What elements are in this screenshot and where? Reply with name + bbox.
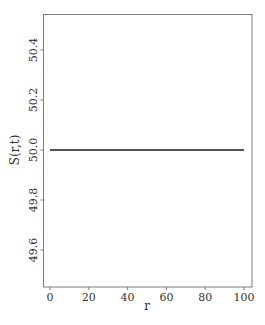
x-tick-label: 20 — [82, 291, 96, 304]
y-tick-label: 50.2 — [27, 88, 40, 113]
x-tick-label: 0 — [47, 291, 54, 304]
y-tick-label: 49.8 — [27, 188, 40, 213]
y-tick-label: 49.6 — [27, 238, 40, 263]
x-axis-ticks: 020406080100 — [47, 287, 255, 304]
y-tick-label: 50.0 — [27, 138, 40, 163]
x-axis-title: r — [144, 299, 150, 313]
x-tick-label: 40 — [121, 291, 135, 304]
x-tick-label: 80 — [198, 291, 212, 304]
line-chart: 020406080100 49.649.850.050.250.4 r S(r,… — [0, 0, 265, 325]
y-tick-label: 50.4 — [27, 38, 40, 63]
x-tick-label: 100 — [234, 291, 255, 304]
y-axis-title: S(r,t) — [8, 135, 22, 166]
x-tick-label: 60 — [159, 291, 173, 304]
y-axis-ticks: 49.649.850.050.250.4 — [27, 38, 44, 263]
